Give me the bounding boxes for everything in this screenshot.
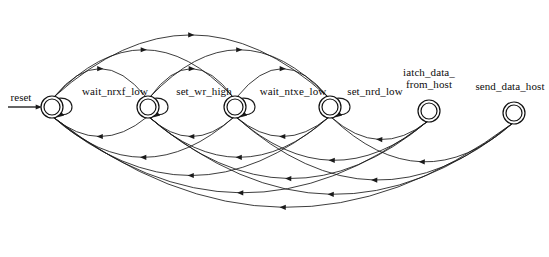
state-label-line1-latch_data_from_host: iatch_data_ xyxy=(403,66,455,78)
state-label-set_wr_high: set_wr_high xyxy=(176,85,232,97)
state-nodes-layer xyxy=(41,96,525,124)
arrowhead-latch_data_from_host-to-set_wr_high xyxy=(285,176,291,181)
arrowhead-wait_ntxe_low-to-set_nrd_low xyxy=(280,66,286,71)
state-label-wait_nrxf_low: wait_nrxf_low xyxy=(82,85,148,97)
transition-set_nrd_low-to-wait_ntxe_low xyxy=(236,117,329,137)
arrowhead-set_nrd_low-to-wait_nrxf_low xyxy=(188,173,194,178)
arrowhead-latch_data_from_host-to-wait_ntxe_low xyxy=(329,158,335,163)
fsm-canvas: reset wait_nrxf_lowset_wr_highwait_ntxe_… xyxy=(0,0,549,257)
state-node-latch_data_from_host[interactable] xyxy=(418,100,440,122)
state-node-send_data_host[interactable] xyxy=(503,102,525,124)
arrowhead-set_wr_high-to-wait_ntxe_low xyxy=(189,66,195,71)
arrowhead-wait_nrxf_low-to-set_wr_high xyxy=(97,66,103,71)
self-loop-layer xyxy=(58,98,350,117)
arrowhead-set_nrd_low-to-wait_ntxe_low xyxy=(279,134,285,139)
arrowhead-latch_data_from_host-to-set_nrd_low xyxy=(376,137,382,142)
state-inner-circle-latch_data_from_host xyxy=(421,103,437,119)
state-node-wait_ntxe_low[interactable] xyxy=(224,96,246,118)
state-inner-circle-send_data_host xyxy=(506,105,522,121)
arrowhead-send_data_host-to-wait_nrxf_low xyxy=(280,205,286,210)
arrowhead-wait_nrxf_low-to-set_nrd_low xyxy=(188,32,194,37)
state-inner-circle-set_nrd_low xyxy=(322,99,338,115)
state-label-line2-latch_data_from_host: from_host xyxy=(406,78,452,90)
reset-label: reset xyxy=(11,91,32,103)
arrowhead-send_data_host-to-set_wr_high xyxy=(328,192,334,197)
state-label-latch_data_from_host: iatch_data_from_host xyxy=(403,66,455,90)
fsm-diagram: reset wait_nrxf_lowset_wr_highwait_ntxe_… xyxy=(0,0,549,257)
arrowhead-wait_ntxe_low-to-set_wr_high xyxy=(188,134,194,139)
transition-set_wr_high-to-wait_nrxf_low xyxy=(53,117,147,137)
state-node-wait_nrxf_low[interactable] xyxy=(41,96,63,118)
state-label-set_nrd_low: set_nrd_low xyxy=(347,85,402,97)
arrowhead-send_data_host-to-set_nrd_low xyxy=(419,159,425,164)
arrowhead-latch_data_from_host-to-wait_nrxf_low xyxy=(237,190,243,195)
arrowhead-wait_ntxe_low-to-wait_nrxf_low xyxy=(140,155,146,160)
state-inner-circle-wait_ntxe_low xyxy=(227,99,243,115)
arrowhead-set_wr_high-to-wait_nrxf_low xyxy=(97,134,103,139)
arrowhead-set_nrd_low-to-set_wr_high xyxy=(236,155,242,160)
transition-send_data_host-to-set_nrd_low xyxy=(331,117,513,162)
arrowhead-set_wr_high-to-set_nrd_low xyxy=(236,47,242,52)
state-node-set_wr_high[interactable] xyxy=(137,96,159,118)
transition-send_data_host-to-wait_nrxf_low xyxy=(53,117,513,207)
transition-send_data_host-to-set_wr_high xyxy=(149,117,513,194)
arrowhead-wait_nrxf_low-to-wait_ntxe_low xyxy=(141,47,147,52)
state-inner-circle-wait_nrxf_low xyxy=(44,99,60,115)
state-label-wait_ntxe_low: wait_ntxe_low xyxy=(260,85,327,97)
state-inner-circle-set_wr_high xyxy=(140,99,156,115)
transition-latch_data_from_host-to-set_nrd_low xyxy=(331,117,428,140)
reset-arrow-layer: reset xyxy=(8,91,42,110)
state-label-send_data_host: send_data_host xyxy=(475,80,544,92)
state-node-set_nrd_low[interactable] xyxy=(319,96,341,118)
arrowhead-send_data_host-to-wait_ntxe_low xyxy=(371,177,377,182)
backward-transitions-layer xyxy=(53,117,513,210)
